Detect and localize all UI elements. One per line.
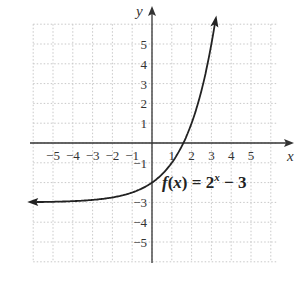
y-tick-label: 1 [141,116,148,131]
y-tick-label: 5 [141,37,148,52]
x-axis-label: x [286,148,294,164]
y-tick-label: 4 [141,57,148,72]
y-tick-label: −1 [133,156,147,171]
function-eq: = 2 [188,173,215,192]
y-tick-label: −5 [133,235,147,250]
y-axis-label: y [134,3,143,19]
axes [30,6,294,263]
y-tick-label: 3 [141,77,148,92]
x-tick-label: −5 [46,148,60,163]
y-tick-label: −4 [133,215,147,230]
function-tail: − 3 [220,173,247,192]
y-tick-label: −3 [133,195,147,210]
graph: −5−4−3−2−11234554321−1−3−4−5 x y f(x) = … [0,0,302,283]
x-tick-label: 3 [208,148,215,163]
x-tick-label: 4 [228,148,235,163]
function-var: x [172,173,182,192]
x-tick-label: −3 [86,148,100,163]
x-tick-label: 5 [248,148,255,163]
x-tick-label: −4 [66,148,80,163]
y-tick-label: 2 [141,96,148,111]
function-label: f(x) = 2x − 3 [162,171,246,192]
x-tick-label: 2 [188,148,195,163]
x-tick-label: −2 [105,148,119,163]
